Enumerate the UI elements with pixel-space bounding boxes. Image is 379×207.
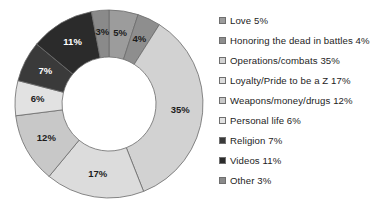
legend-swatch-weapons-money-drugs	[219, 97, 226, 104]
legend-item-label: Weapons/money/drugs 12%	[230, 95, 353, 106]
legend-swatch-personal-life	[219, 117, 226, 124]
legend-item-label: Operations/combats 35%	[230, 55, 340, 66]
legend-item[interactable]: Love 5%	[219, 10, 377, 30]
legend-item-label: Other 3%	[230, 175, 271, 186]
donut-chart: 5%4%35%17%12%6%7%11%3%	[8, 4, 210, 204]
legend-item-label: Videos 11%	[230, 155, 281, 166]
legend-item-label: Honoring the dead in battles 4%	[230, 35, 370, 46]
donut-slice-value-label: 17%	[88, 168, 108, 179]
donut-chart-svg: 5%4%35%17%12%6%7%11%3%	[8, 4, 210, 204]
legend-item-label: Personal life 6%	[230, 115, 301, 126]
legend-item[interactable]: Religion 7%	[219, 130, 377, 150]
legend-swatch-operations-combats	[219, 57, 226, 64]
donut-slice-value-label: 11%	[63, 36, 82, 47]
legend-item[interactable]: Weapons/money/drugs 12%	[219, 90, 377, 110]
donut-slice-value-label: 5%	[113, 27, 127, 38]
chart-page: 5%4%35%17%12%6%7%11%3% Love 5%Honoring t…	[0, 0, 379, 207]
legend-swatch-religion	[219, 137, 226, 144]
legend-item[interactable]: Loyalty/Pride to be a Z 17%	[219, 70, 377, 90]
legend-swatch-videos	[219, 157, 226, 164]
legend-swatch-loyalty-pride-to-be-a-z	[219, 77, 226, 84]
legend-item-label: Loyalty/Pride to be a Z 17%	[230, 75, 351, 86]
legend-item[interactable]: Other 3%	[219, 170, 377, 190]
chart-legend: Love 5%Honoring the dead in battles 4%Op…	[219, 10, 377, 190]
donut-slice-value-label: 7%	[38, 65, 52, 76]
legend-swatch-love	[219, 17, 226, 24]
legend-item[interactable]: Honoring the dead in battles 4%	[219, 30, 377, 50]
legend-item[interactable]: Operations/combats 35%	[219, 50, 377, 70]
donut-slice-value-label: 6%	[31, 93, 45, 104]
donut-slice-value-label: 3%	[95, 26, 109, 37]
legend-item[interactable]: Videos 11%	[219, 150, 377, 170]
legend-item[interactable]: Personal life 6%	[219, 110, 377, 130]
donut-slice-value-label: 35%	[171, 104, 191, 115]
legend-item-label: Religion 7%	[230, 135, 282, 146]
donut-slice-value-label: 4%	[133, 33, 147, 44]
legend-swatch-other	[219, 177, 226, 184]
legend-swatch-honoring-the-dead-in-battles	[219, 37, 226, 44]
donut-slice-value-label: 12%	[37, 132, 57, 143]
legend-item-label: Love 5%	[230, 15, 268, 26]
